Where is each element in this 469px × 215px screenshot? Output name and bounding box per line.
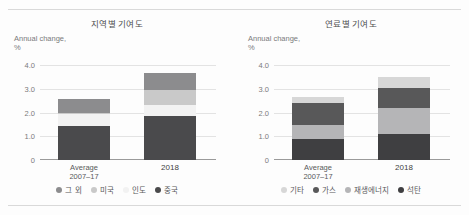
stacked-bar[interactable] (58, 99, 110, 160)
legend-label: 기타 (290, 184, 304, 195)
y-tick-label: 2.0 (25, 108, 35, 117)
bar-segment (144, 90, 196, 105)
legend-label: 석탄 (407, 184, 421, 195)
top-divider-rule (8, 9, 461, 10)
stacked-bar[interactable] (144, 73, 196, 160)
bar-segment (292, 97, 344, 104)
bar-segment (144, 73, 196, 90)
bar-segment (378, 134, 430, 160)
legend-item[interactable]: 그 외 (56, 184, 81, 195)
legend-item[interactable]: 인도 (123, 184, 146, 195)
y-axis-caption-fuel: Annual change, % (248, 34, 300, 52)
x-axis-label: 2018 (367, 164, 441, 173)
legend-item[interactable]: 재생에너지 (345, 184, 389, 195)
legend-item[interactable]: 중국 (155, 184, 178, 195)
x-axis-label: 2018 (133, 164, 207, 173)
gridline (40, 65, 216, 66)
y-tick-label: 3.0 (259, 84, 269, 93)
y-tick-label: 4.0 (25, 61, 35, 70)
x-axis-label: Average 2007–17 (47, 164, 121, 181)
chart-panel-fuel: 연료별 기여도 Annual change, % 4.0 3.0 2.0 1.0… (234, 12, 468, 204)
bar-segment (292, 103, 344, 124)
plot-area-region: 4.0 3.0 2.0 1.0 0 Average 2007–17 2018 (40, 65, 216, 160)
y-tick-label: 3.0 (25, 84, 35, 93)
bar-segment (378, 88, 430, 108)
legend-swatch-icon (155, 187, 161, 193)
plot-area-fuel: 4.0 3.0 2.0 1.0 0 Average 2007–17 2018 (274, 65, 450, 160)
bar-segment (378, 77, 430, 88)
legend-swatch-icon (56, 187, 62, 193)
legend-item[interactable]: 석탄 (398, 184, 421, 195)
legend-label: 미국 (100, 184, 114, 195)
y-axis-caption-region: Annual change, % (14, 34, 66, 52)
chart-legend-fuel: 기타가스재생에너지석탄 (234, 184, 468, 195)
bar-segment (144, 105, 196, 116)
legend-label: 그 외 (65, 184, 81, 195)
legend-item[interactable]: 가스 (313, 184, 336, 195)
y-tick-label: 4.0 (259, 61, 269, 70)
legend-label: 가스 (322, 184, 336, 195)
y-tick-label: 0 (31, 156, 35, 165)
bar-segment (58, 99, 110, 113)
bar-segment (58, 126, 110, 160)
x-axis-label: Average 2007–17 (281, 164, 355, 181)
bottom-divider-rule (8, 205, 461, 206)
legend-label: 재생에너지 (354, 184, 389, 195)
figure-container: 지역별 기여도 Annual change, % 4.0 3.0 2.0 1.0… (0, 0, 469, 215)
y-tick-label: 0 (265, 156, 269, 165)
stacked-bar[interactable] (292, 97, 344, 160)
legend-swatch-icon (313, 187, 319, 193)
y-tick-label: 1.0 (259, 132, 269, 141)
legend-swatch-icon (345, 187, 351, 193)
legend-swatch-icon (398, 187, 404, 193)
legend-label: 인도 (132, 184, 146, 195)
legend-swatch-icon (281, 187, 287, 193)
legend-item[interactable]: 미국 (91, 184, 114, 195)
chart-title-region: 지역별 기여도 (0, 17, 234, 29)
legend-item[interactable]: 기타 (281, 184, 304, 195)
chart-panel-region: 지역별 기여도 Annual change, % 4.0 3.0 2.0 1.0… (0, 12, 234, 204)
y-tick-label: 1.0 (25, 132, 35, 141)
bar-segment (58, 114, 110, 126)
bar-segment (292, 139, 344, 160)
bar-segment (378, 108, 430, 134)
chart-title-fuel: 연료별 기여도 (234, 17, 468, 29)
legend-label: 중국 (164, 184, 178, 195)
bar-segment (144, 116, 196, 160)
chart-legend-region: 그 외미국인도중국 (0, 184, 234, 195)
legend-swatch-icon (123, 187, 129, 193)
stacked-bar[interactable] (378, 77, 430, 160)
legend-swatch-icon (91, 187, 97, 193)
gridline (274, 65, 450, 66)
bar-segment (292, 125, 344, 139)
y-tick-label: 2.0 (259, 108, 269, 117)
